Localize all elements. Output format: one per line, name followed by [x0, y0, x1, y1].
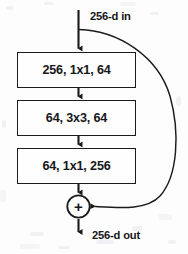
- output-label: 256-d out: [92, 230, 140, 241]
- conv-block-2[interactable]: 64, 3x3, 64: [17, 100, 136, 136]
- conv-block-1-label: 256, 1x1, 64: [42, 64, 110, 77]
- conv-block-1[interactable]: 256, 1x1, 64: [17, 52, 136, 88]
- conv-block-3-label: 64, 1x1, 256: [42, 160, 110, 173]
- input-label: 256-d in: [90, 11, 131, 22]
- figure-canvas: 256-d in 256, 1x1, 64 64, 3x3, 64 64, 1x…: [0, 0, 188, 254]
- conv-block-3[interactable]: 64, 1x1, 256: [17, 148, 136, 184]
- conv-block-2-label: 64, 3x3, 64: [46, 112, 107, 125]
- addition-node-symbol: +: [68, 199, 90, 214]
